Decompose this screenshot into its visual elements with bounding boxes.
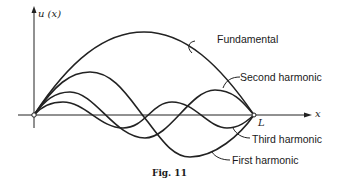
x-axis-arrow-icon <box>304 113 312 118</box>
first-harmonic-label: First harmonic <box>232 154 299 166</box>
y-axis-label: u (x) <box>38 8 61 19</box>
origin-point <box>32 113 36 117</box>
x-axis-label: x <box>315 108 321 119</box>
third-harmonic-label: Third harmonic <box>252 133 322 145</box>
fundamental-label: Fundamental <box>217 33 278 45</box>
end-label: L <box>258 117 265 128</box>
second-harmonic-label: Second harmonic <box>240 71 322 83</box>
end-point <box>252 113 256 117</box>
figure-caption: Fig. 11 <box>152 168 187 178</box>
second-harmonic-curve <box>34 90 254 138</box>
y-axis-arrow-icon <box>32 6 37 13</box>
